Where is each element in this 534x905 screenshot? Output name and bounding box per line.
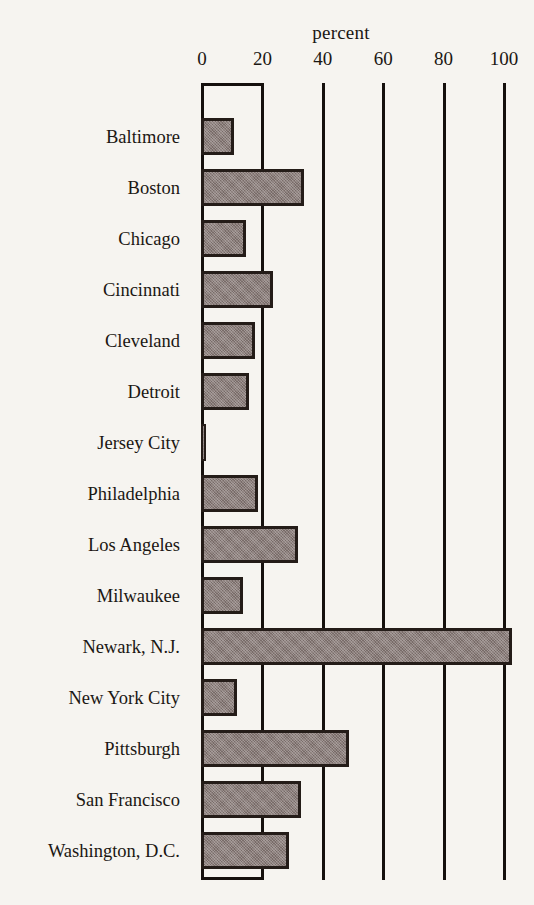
bar-chicago xyxy=(201,220,246,257)
axis-base-top xyxy=(201,83,263,86)
category-label-los-angeles: Los Angeles xyxy=(0,534,180,555)
bar-boston xyxy=(201,169,304,206)
category-label-jersey-city: Jersey City xyxy=(0,432,180,453)
category-label-newark-n-j: Newark, N.J. xyxy=(0,636,180,657)
bar-cincinnati xyxy=(201,271,273,308)
bar-new-york-city xyxy=(201,679,237,716)
bar-jersey-city xyxy=(201,424,206,461)
category-label-philadelphia: Philadelphia xyxy=(0,483,180,504)
category-label-cleveland: Cleveland xyxy=(0,330,180,351)
category-label-new-york-city: New York City xyxy=(0,687,180,708)
x-tick-label-20: 20 xyxy=(253,48,272,70)
gridline-60 xyxy=(382,83,385,880)
category-label-detroit: Detroit xyxy=(0,381,180,402)
bar-chart: percent 020406080100BaltimoreBostonChica… xyxy=(0,0,534,905)
category-label-cincinnati: Cincinnati xyxy=(0,279,180,300)
gridline-80 xyxy=(443,83,446,880)
category-label-baltimore: Baltimore xyxy=(0,126,180,147)
bar-baltimore xyxy=(201,118,234,155)
bar-newark-n-j xyxy=(201,628,512,665)
bar-san-francisco xyxy=(201,781,301,818)
x-tick-label-0: 0 xyxy=(197,48,207,70)
category-label-san-francisco: San Francisco xyxy=(0,789,180,810)
category-label-washington-d-c: Washington, D.C. xyxy=(0,840,180,861)
bar-washington-d-c xyxy=(201,832,289,869)
bar-pittsburgh xyxy=(201,730,349,767)
bar-cleveland xyxy=(201,322,255,359)
x-tick-label-80: 80 xyxy=(434,48,453,70)
bar-philadelphia xyxy=(201,475,258,512)
category-label-chicago: Chicago xyxy=(0,228,180,249)
axis-base-bottom xyxy=(201,877,263,880)
category-label-boston: Boston xyxy=(0,177,180,198)
gridline-100 xyxy=(503,83,506,880)
category-label-milwaukee: Milwaukee xyxy=(0,585,180,606)
x-tick-label-60: 60 xyxy=(374,48,393,70)
x-tick-label-100: 100 xyxy=(490,48,519,70)
x-tick-label-40: 40 xyxy=(313,48,332,70)
bar-los-angeles xyxy=(201,526,298,563)
bar-milwaukee xyxy=(201,577,243,614)
category-label-pittsburgh: Pittsburgh xyxy=(0,738,180,759)
bar-detroit xyxy=(201,373,249,410)
